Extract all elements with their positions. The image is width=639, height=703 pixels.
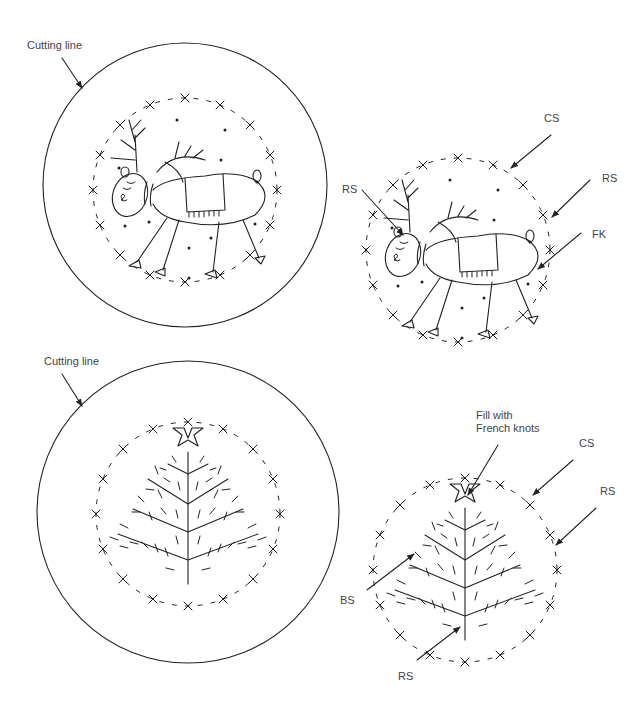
reindeer-template [43, 43, 327, 327]
rs-label-tree-bottom: RS [398, 670, 413, 683]
bs-label: BS [340, 594, 355, 607]
reindeer-stitch-guide [362, 135, 590, 346]
rs-label-reindeer-right: RS [602, 172, 617, 185]
tree-stitch-guide [367, 445, 596, 666]
rs-label-reindeer-left: RS [342, 183, 357, 196]
cutting-line-label-bottom: Cutting line [44, 355, 99, 368]
fill-label-line1: Fill with [476, 409, 513, 422]
cutting-line-label-top: Cutting line [27, 39, 82, 52]
fk-label: FK [592, 228, 606, 241]
fill-label-line2: French knots [476, 422, 540, 435]
pattern-artwork [0, 0, 639, 703]
rs-label-tree-right: RS [600, 485, 615, 498]
tree-template [37, 361, 339, 663]
cs-label-reindeer: CS [544, 112, 559, 125]
cs-label-tree: CS [579, 437, 594, 450]
